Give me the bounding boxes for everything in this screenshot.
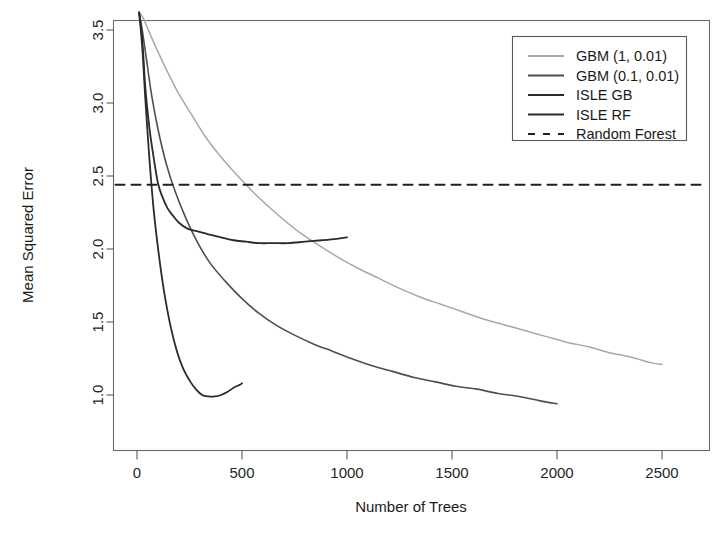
legend-label-3: ISLE GB (576, 87, 632, 103)
y-tick-label: 1.5 (89, 312, 106, 333)
x-tick-label: 2000 (540, 464, 573, 481)
x-tick-label: 1000 (330, 464, 363, 481)
x-tick-label: 1500 (435, 464, 468, 481)
legend-label-5: Random Forest (576, 126, 676, 142)
y-tick-label: 3.5 (89, 20, 106, 41)
y-axis-title: Mean Squared Error (19, 167, 36, 303)
chart-page: 1.01.52.02.53.03.5 05001000150020002500 … (0, 0, 723, 551)
x-tick-label: 0 (133, 464, 141, 481)
y-tick-label: 2.5 (89, 166, 106, 187)
y-tick-label: 3.0 (89, 93, 106, 114)
mse-vs-trees-chart: 1.01.52.02.53.03.5 05001000150020002500 … (0, 0, 723, 551)
legend-label-1: GBM (1, 0.01) (576, 48, 667, 64)
x-tick-label: 2500 (645, 464, 678, 481)
legend-label-2: GBM (0.1, 0.01) (576, 68, 679, 84)
x-tick-label: 500 (229, 464, 254, 481)
legend-label-4: ISLE RF (576, 107, 631, 123)
y-tick-label: 1.0 (89, 385, 106, 406)
x-axis-title: Number of Trees (355, 498, 467, 515)
legend: GBM (1, 0.01)GBM (0.1, 0.01)ISLE GBISLE … (513, 37, 687, 143)
y-tick-label: 2.0 (89, 239, 106, 260)
